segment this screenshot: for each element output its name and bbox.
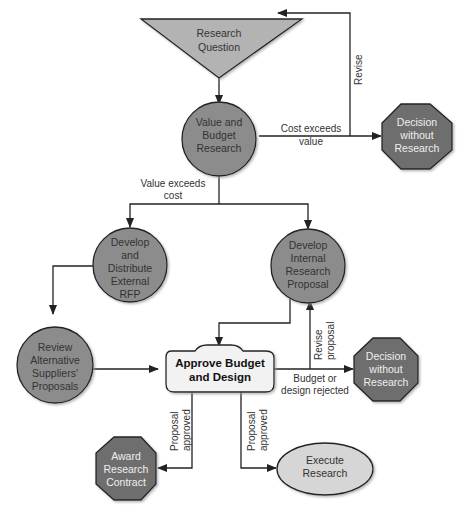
edge-label-value-exceeds: cost (164, 190, 183, 201)
node-label: Develop (111, 236, 150, 248)
node-label: Budget (202, 129, 235, 141)
node-decision-without-research-bottom: Decision without Research (354, 338, 418, 401)
node-label: Distribute (108, 262, 153, 274)
node-label: and Design (189, 371, 251, 383)
research-process-flowchart: Research Question Value and Budget Resea… (0, 0, 467, 516)
node-execute-research: Execute Research (277, 443, 373, 495)
node-label: Question (198, 41, 240, 53)
node-review-suppliers: Review Alternative Suppliers' Proposals (17, 327, 93, 403)
edge-label-revise-proposal: Revise (313, 329, 324, 360)
node-research-question: Research Question (141, 19, 302, 78)
node-label: Research (197, 142, 242, 154)
node-label: Research (286, 265, 331, 277)
node-label: Suppliers' (32, 367, 78, 379)
node-label: without (368, 363, 402, 375)
node-label: without (399, 129, 433, 141)
node-label: Develop (289, 239, 328, 251)
node-external-rfp: Develop and Distribute External RFP (93, 228, 167, 302)
edge-label-approved-left: Proposal (169, 412, 180, 451)
node-label: Proposal (287, 278, 328, 290)
node-label: Proposals (32, 380, 79, 392)
node-label: Research (395, 142, 440, 154)
node-label: Research (303, 467, 348, 479)
node-label: Alternative (30, 354, 80, 366)
edge-label-rejected: Budget or (293, 373, 337, 384)
node-award-research-contract: Award Research Contract (96, 437, 156, 500)
node-label: Review (38, 341, 73, 353)
node-decision-without-research-top: Decision without Research (382, 104, 452, 169)
edge-label-approved-left: approved (181, 409, 192, 451)
node-label: Decision (366, 350, 406, 362)
node-label: Research (197, 27, 242, 39)
node-label: Decision (397, 116, 437, 128)
node-label: Execute (306, 454, 344, 466)
edge-label-cost-exceeds: Cost exceeds (281, 123, 342, 134)
edge-label-approved-right: approved (258, 409, 269, 451)
edge-label-rejected: design rejected (281, 385, 349, 396)
node-label: RFP (120, 288, 141, 300)
node-approve-budget-design: Approve Budget and Design (166, 345, 274, 392)
node-label: Internal (290, 252, 325, 264)
node-label: Research (104, 463, 149, 475)
node-label: Approve Budget (175, 357, 265, 369)
edge-label-approved-right: Proposal (246, 412, 257, 451)
edge-label-cost-exceeds: value (299, 136, 323, 147)
node-label: Research (364, 376, 409, 388)
node-label: Contract (106, 476, 146, 488)
node-label: External (111, 275, 150, 287)
edge-label-revise-proposal: proposal (325, 322, 336, 360)
node-label: and (121, 249, 139, 261)
node-internal-proposal: Develop Internal Research Proposal (271, 229, 345, 303)
edge-label-revise: Revise (353, 54, 364, 85)
node-label: Value and (196, 116, 243, 128)
node-label: Award (111, 450, 141, 462)
node-value-budget-research: Value and Budget Research (182, 102, 256, 176)
edge-label-value-exceeds: Value exceeds (141, 178, 206, 189)
